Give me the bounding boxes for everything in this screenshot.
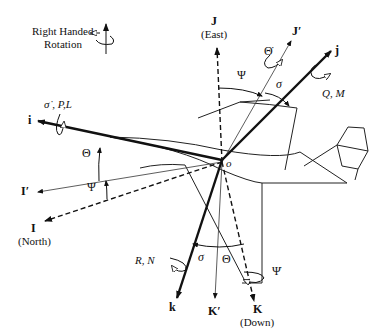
label-theta-left: Θ (82, 146, 91, 160)
label-j: j (334, 43, 339, 57)
yaw-rate-loop (170, 258, 186, 271)
intermediate-axes (38, 41, 291, 298)
label-east: (East) (201, 28, 228, 41)
label-i: i (28, 113, 32, 127)
angle-arcs (99, 88, 289, 247)
label-sigma-top: σ (276, 77, 283, 91)
psi-left-arc (106, 181, 107, 199)
label-k: k (169, 300, 176, 314)
label-origin: o (226, 157, 232, 169)
legend-line1: Right Handed (32, 25, 94, 37)
i-axis (38, 121, 222, 160)
label-roll-rate: σ̇ , P,L (44, 98, 72, 110)
psi-top-arc (218, 88, 262, 96)
J-axis (217, 48, 222, 162)
label-J-prime: J′ (292, 24, 301, 38)
theta-left-arc (99, 148, 100, 181)
label-I: I (31, 221, 36, 235)
K-prime-axis (215, 162, 222, 298)
label-psi-dot: Ψ̇ (272, 264, 282, 278)
label-theta-dot: Θ̇ (264, 44, 274, 58)
label-pitch-rate: Q, M (322, 87, 345, 99)
label-sigma-bottom: σ (198, 250, 205, 264)
coordinate-frame-diagram: Right Handed Rotation i I′ I (North) J (… (0, 0, 384, 331)
label-J: J (211, 14, 217, 28)
label-north: (North) (18, 235, 51, 248)
pitch-rate-loop (311, 64, 330, 79)
label-K-prime: K′ (208, 304, 221, 318)
k-axis (177, 160, 222, 298)
legend-line2: Rotation (44, 38, 82, 50)
K-axis (222, 162, 254, 301)
label-theta-bottom: Θ (222, 252, 231, 266)
label-yaw-rate: R, N (134, 254, 155, 266)
label-K: K (253, 302, 263, 316)
I-axis (45, 162, 222, 221)
body-axes (38, 51, 331, 298)
label-psi-top: Ψ (237, 68, 246, 82)
I-prime-axis (38, 162, 222, 192)
label-down: (Down) (240, 316, 275, 329)
sigma-bottom-arc (193, 244, 244, 247)
label-psi-left: Ψ (87, 180, 96, 194)
label-I-prime: I′ (21, 184, 29, 198)
